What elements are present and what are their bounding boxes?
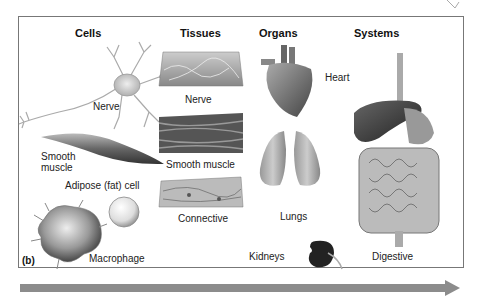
cell-label-adipose: Adipose (fat) cell — [65, 180, 139, 191]
tissue-label-nerve: Nerve — [185, 94, 212, 105]
diagram-frame: Cells Tissues Organs Systems Nerve — [18, 16, 464, 268]
digestive-system-illustration — [349, 53, 449, 253]
kidney-illustration — [304, 239, 344, 269]
organ-label-lungs: Lungs — [280, 211, 307, 222]
nerve-tissue-illustration — [159, 50, 244, 88]
tissue-label-smooth-muscle: Smooth muscle — [166, 159, 235, 170]
cell-label-macrophage: Macrophage — [89, 253, 145, 264]
organ-label-kidneys: Kidneys — [249, 251, 285, 262]
cell-label-nerve: Nerve — [93, 101, 120, 112]
smooth-muscle-tissue-illustration — [159, 113, 244, 155]
column-header-organs: Organs — [259, 27, 298, 39]
connective-tissue-illustration — [159, 177, 244, 209]
column-header-systems: Systems — [354, 27, 399, 39]
heart-illustration — [259, 45, 319, 119]
top-arrow-tip-icon — [445, 0, 465, 14]
nerve-cell-illustration — [19, 37, 169, 137]
lungs-illustration — [256, 129, 326, 191]
system-label-digestive: Digestive — [372, 251, 413, 262]
adipose-cell-illustration — [105, 193, 145, 233]
tissue-label-connective: Connective — [178, 213, 228, 224]
cell-label-smooth-muscle: Smooth muscle — [41, 151, 75, 173]
smooth-line2: muscle — [41, 162, 75, 173]
column-header-tissues: Tissues — [180, 27, 221, 39]
figure-label: (b) — [22, 255, 35, 266]
smooth-line1: Smooth — [41, 151, 75, 162]
organ-label-heart: Heart — [325, 72, 349, 83]
progression-arrow-icon — [20, 280, 460, 296]
